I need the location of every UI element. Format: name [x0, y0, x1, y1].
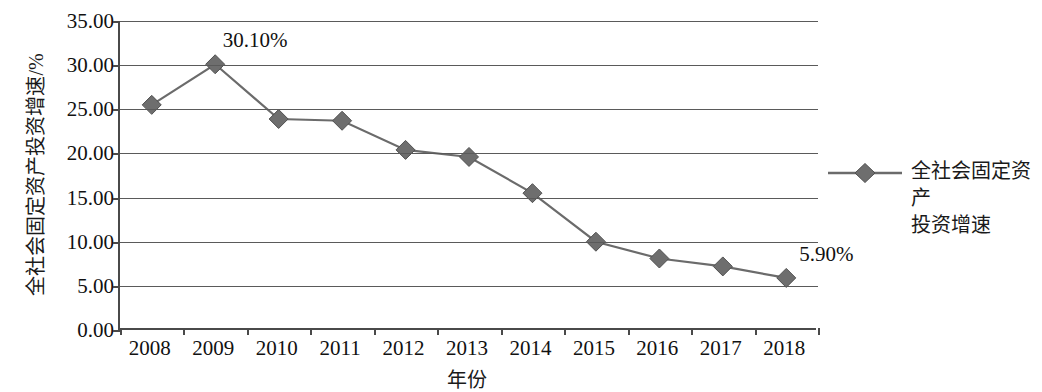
- data-label: 5.90%: [799, 242, 853, 267]
- x-axis-tick-mark: [120, 328, 122, 335]
- data-point-marker: [650, 249, 669, 268]
- y-axis-tick-mark: [113, 21, 120, 23]
- data-point-marker: [460, 147, 479, 166]
- gridline: [120, 65, 818, 66]
- y-axis-tick-mark: [113, 242, 120, 244]
- x-axis-tick-label: 2018: [763, 336, 805, 361]
- gridline: [120, 242, 818, 243]
- y-axis-tick-label: 20.00: [36, 141, 114, 166]
- x-axis-tick-label: 2009: [192, 336, 234, 361]
- plot-area: [118, 21, 816, 330]
- x-axis-tick-label: 2008: [129, 336, 171, 361]
- data-point-marker: [142, 95, 161, 114]
- legend-label-line2: 投资增速: [911, 212, 1041, 239]
- legend-label: 全社会固定资产 投资增速: [911, 158, 1041, 239]
- y-axis-tick-label: 25.00: [36, 97, 114, 122]
- gridline: [120, 21, 818, 22]
- x-axis-tick-label: 2014: [509, 336, 551, 361]
- data-point-marker: [333, 111, 352, 130]
- x-axis-tick-mark: [247, 328, 249, 335]
- data-point-marker: [396, 140, 415, 159]
- y-axis-tick-label: 30.00: [36, 53, 114, 78]
- y-axis-tick-label: 0.00: [36, 318, 114, 343]
- x-axis-tick-mark: [310, 328, 312, 335]
- y-axis-tick-mark: [113, 286, 120, 288]
- x-axis-tick-mark: [691, 328, 693, 335]
- data-point-marker: [777, 268, 796, 287]
- x-axis-tick-label: 2013: [446, 336, 488, 361]
- y-axis-tick-mark: [113, 198, 120, 200]
- data-point-marker: [713, 257, 732, 276]
- x-axis-tick-label: 2011: [319, 336, 360, 361]
- y-axis-tick-mark: [113, 330, 120, 332]
- x-axis-tick-mark: [374, 328, 376, 335]
- x-axis-tick-mark: [755, 328, 757, 335]
- x-axis-tick-label: 2017: [700, 336, 742, 361]
- series-line: [152, 64, 787, 278]
- x-axis-tick-mark: [818, 328, 820, 335]
- x-axis-tick-mark: [501, 328, 503, 335]
- data-label: 30.10%: [223, 28, 288, 53]
- gridline: [120, 153, 818, 154]
- x-axis-tick-mark: [437, 328, 439, 335]
- x-axis-tick-mark: [628, 328, 630, 335]
- y-axis-tick-label: 10.00: [36, 229, 114, 254]
- y-axis-tick-label: 35.00: [36, 9, 114, 34]
- gridline: [120, 286, 818, 287]
- chart-figure: 全社会固定资产投资增速/% 0.005.0010.0015.0020.0025.…: [0, 0, 1042, 392]
- legend-label-line1: 全社会固定资产: [911, 158, 1041, 212]
- chart-legend: 全社会固定资产 投资增速: [828, 158, 1041, 239]
- x-axis-tick-mark: [183, 328, 185, 335]
- x-axis-tick-labels: 2008200920102011201220132014201520162017…: [118, 336, 816, 366]
- y-axis-tick-labels: 0.005.0010.0015.0020.0025.0030.0035.00: [36, 0, 114, 392]
- y-axis-tick-mark: [113, 109, 120, 111]
- x-axis-tick-label: 2016: [636, 336, 678, 361]
- legend-marker-icon: [828, 160, 902, 186]
- x-axis-tick-mark: [564, 328, 566, 335]
- y-axis-tick-mark: [113, 153, 120, 155]
- y-axis-tick-label: 15.00: [36, 185, 114, 210]
- x-axis-tick-label: 2012: [383, 336, 425, 361]
- y-axis-tick-mark: [113, 65, 120, 67]
- gridline: [120, 198, 818, 199]
- gridline: [120, 109, 818, 110]
- series-line-group: [120, 21, 818, 330]
- data-point-marker: [523, 184, 542, 203]
- x-axis-title: 年份: [118, 364, 816, 392]
- x-axis-tick-label: 2010: [256, 336, 298, 361]
- y-axis-tick-label: 5.00: [36, 273, 114, 298]
- x-axis-tick-label: 2015: [573, 336, 615, 361]
